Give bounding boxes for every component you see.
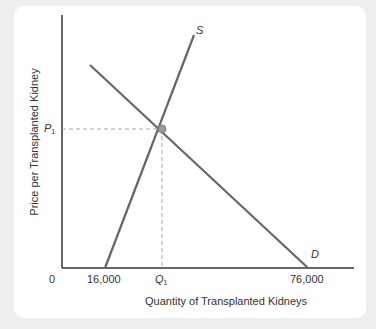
demand-label: D (311, 248, 319, 260)
x-tick-76000: 76,000 (290, 273, 324, 285)
equilibrium-point (158, 125, 166, 133)
origin-label: 0 (49, 273, 55, 285)
q1-sub: 1 (164, 279, 168, 286)
x-axis-title: Quantity of Transplanted Kidneys (145, 295, 307, 307)
p1-sub: 1 (51, 128, 55, 135)
supply-curve (105, 35, 194, 268)
q1-label: Q1 (155, 273, 167, 286)
x-tick-16000: 16,000 (87, 273, 121, 285)
q1-main: Q (155, 273, 164, 285)
y-axis-title: Price per Transplanted Kidney (28, 68, 40, 215)
demand-curve (90, 65, 308, 268)
p1-label: P1 (44, 122, 55, 135)
supply-label: S (196, 24, 203, 36)
